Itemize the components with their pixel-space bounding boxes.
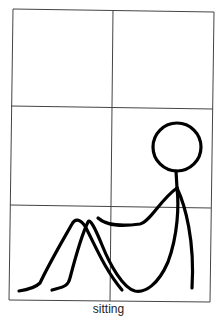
caption-label: sitting — [0, 302, 217, 316]
sitting-figure-diagram — [0, 0, 217, 331]
head — [153, 123, 201, 171]
grid — [9, 9, 214, 302]
neck-torso — [176, 171, 177, 188]
